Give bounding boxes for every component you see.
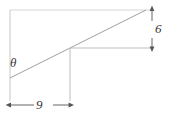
angle-theta-label: θ bbox=[10, 56, 16, 69]
hypotenuse-line bbox=[10, 10, 146, 78]
figure-canvas bbox=[0, 0, 171, 118]
geometry-figure: θ 9 6 bbox=[0, 0, 171, 118]
rise-dimension-label: 6 bbox=[155, 22, 162, 35]
run-dimension-label: 9 bbox=[36, 98, 43, 111]
